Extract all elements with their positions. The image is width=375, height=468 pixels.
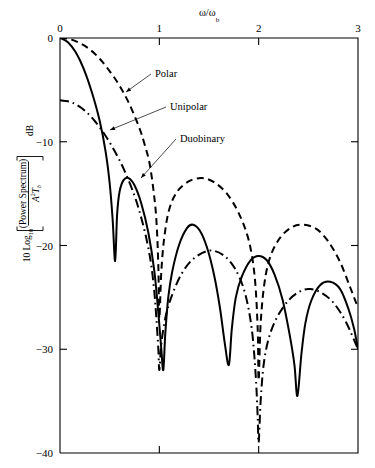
series-curve-duobinary [60, 38, 358, 396]
y-tick-label: −30 [36, 343, 54, 355]
annotation-arrowhead [126, 87, 131, 92]
x-tick-label: 1 [157, 22, 163, 34]
annotation-polar: Polar [126, 68, 178, 92]
x-axis-title: ω/ωb [199, 7, 220, 24]
series-curve-polar [60, 38, 358, 380]
y-label-denominator: A2Tb [30, 185, 42, 203]
y-axis-title: 10 Log10 [22, 229, 34, 263]
annotation-label: Unipolar [170, 101, 208, 112]
y-tick-label: −10 [36, 136, 54, 148]
plot-frame [60, 38, 358, 453]
x-tick-label: 2 [256, 22, 262, 34]
power-spectrum-chart: 01230−10−20−30−40ω/ωb10 Log10 (Power Spe… [0, 0, 375, 468]
y-tick-label: 0 [48, 32, 54, 44]
annotation-leader [110, 107, 166, 130]
x-tick-label: 0 [57, 22, 63, 34]
annotation-leader [141, 139, 176, 178]
annotation-unipolar: Unipolar [110, 101, 208, 130]
annotation-label: Duobinary [180, 133, 226, 144]
y-tick-label: −40 [36, 447, 54, 459]
svg-text:10 Log10: 10 Log10 [22, 229, 34, 263]
x-tick-label: 3 [355, 22, 361, 34]
y-tick-label: −20 [36, 240, 54, 252]
figure-root: 01230−10−20−30−40ω/ωb10 Log10 (Power Spe… [0, 0, 375, 468]
y-label-units: dB [25, 125, 35, 136]
annotation-label: Polar [155, 68, 178, 79]
annotation-duobinary: Duobinary [141, 133, 226, 178]
y-label-numerator: (Power Spectrum) [18, 159, 29, 228]
curves-group [60, 38, 358, 443]
annotation-arrowhead [110, 126, 115, 130]
